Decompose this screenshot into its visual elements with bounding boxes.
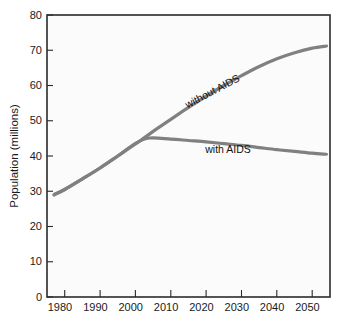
y-axis-tick-labels: 0 10 20 30 40 50 60 70 80 (30, 9, 42, 303)
x-tick-label-2010: 2010 (154, 301, 178, 313)
y-tick-label-50: 50 (30, 114, 42, 126)
y-tick-label-70: 70 (30, 44, 42, 56)
chart-canvas: 0 10 20 30 40 50 60 70 80 1980 1990 2000… (0, 0, 345, 330)
y-axis-title: Population (millions) (8, 104, 20, 208)
x-tick-label-2020: 2020 (189, 301, 213, 313)
y-tick-label-30: 30 (30, 185, 42, 197)
y-tick-label-10: 10 (30, 255, 42, 267)
x-tick-label-2000: 2000 (118, 301, 142, 313)
x-tick-label-2030: 2030 (225, 301, 249, 313)
x-tick-label-1990: 1990 (83, 301, 107, 313)
x-axis-tick-labels: 1980 1990 2000 2010 2020 2030 2040 2050 (48, 301, 320, 313)
x-tick-label-2050: 2050 (295, 301, 319, 313)
x-tick-label-2040: 2040 (260, 301, 284, 313)
population-projection-chart: 0 10 20 30 40 50 60 70 80 1980 1990 2000… (0, 0, 345, 330)
x-tick-label-1980: 1980 (48, 301, 72, 313)
plot-background (47, 15, 330, 297)
y-tick-label-20: 20 (30, 220, 42, 232)
y-tick-label-60: 60 (30, 79, 42, 91)
y-tick-label-40: 40 (30, 150, 42, 162)
series-label-with-aids: with AIDS (204, 143, 251, 155)
y-tick-label-80: 80 (30, 9, 42, 21)
y-tick-label-0: 0 (36, 291, 42, 303)
